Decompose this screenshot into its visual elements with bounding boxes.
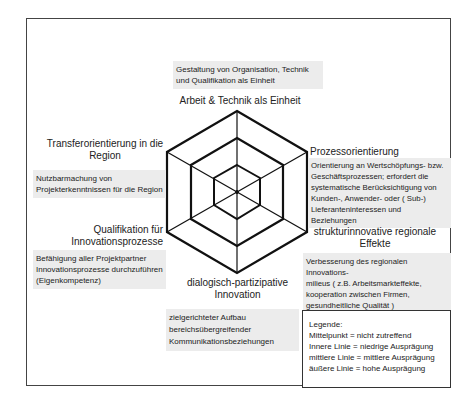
center-point — [236, 191, 239, 194]
description-prozessorientierung: Orientierung an Wertschöpfungs- bzw. Ges… — [308, 158, 451, 228]
description-qualifikation: Befähigung aller Projektpartner Innovati… — [33, 250, 166, 289]
legend-item: äußere Linie = hohe Ausprägung — [309, 363, 444, 374]
axis-label-dialogisch-partizipativ: dialogisch-partizipative Innovation — [170, 277, 305, 301]
axis-label-arbeit-technik: Arbeit & Technik als Einheit — [160, 95, 320, 107]
legend-title: Legende: — [309, 319, 444, 330]
description-arbeit-technik: Gestaltung von Organisation, Technik und… — [173, 61, 323, 89]
description-transferorientierung: Nutzbarmachung von Projekterkenntnissen … — [33, 170, 166, 198]
legend-item: mittlere Linie = mittlere Ausprägung — [309, 352, 444, 363]
axis-label-prozessorientierung: Prozessorientierung — [310, 146, 399, 158]
legend-item: Mittelpunkt = nicht zutreffend — [309, 330, 444, 341]
axis-label-transferorientierung: Transferorientierung in die Region — [45, 138, 165, 162]
description-strukturinnovative-effekte: Verbesserung des regionalen Innovations-… — [303, 253, 451, 314]
axis-label-qualifikation: Qualifikation für Innovationsprozesse — [48, 224, 163, 248]
legend-item: Innere Linie = niedrige Ausprägung — [309, 341, 444, 352]
description-dialogisch-partizipativ: zielgerichteter Aufbau bereichsübergreif… — [166, 309, 299, 351]
axis-label-strukturinnovative-effekte: strukturinnovative regionale Effekte — [305, 226, 445, 250]
legend-box: Legende: Mittelpunkt = nicht zutreffend … — [302, 310, 451, 388]
